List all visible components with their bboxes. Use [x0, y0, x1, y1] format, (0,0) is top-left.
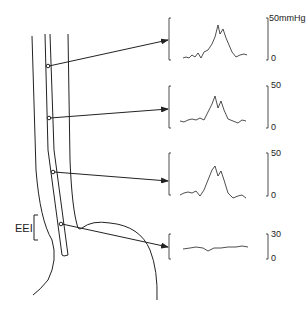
- esophagus-wall: [32, 34, 82, 295]
- trace-2-scale-bottom: 0: [271, 122, 276, 132]
- manometry-diagram: EEI 50mmHg 0 50 0 50 0 30: [0, 0, 307, 311]
- trace-3-scale-bottom: 0: [271, 190, 276, 200]
- stomach-outline: [82, 222, 157, 300]
- pressure-trace-3: [169, 153, 268, 198]
- trace-3-scale-top: 50: [271, 148, 281, 158]
- trace-4-scale-bottom: 0: [271, 253, 276, 263]
- eei-bracket: [34, 215, 38, 240]
- eei-label: EEI: [15, 222, 33, 234]
- pressure-trace-2: [169, 86, 268, 128]
- trace-2-scale-top: 50: [271, 80, 281, 90]
- trace-1-scale-top: 50mmHg: [269, 13, 306, 23]
- arrows: [49, 40, 168, 247]
- trace-1-scale-bottom: 0: [271, 53, 276, 63]
- pressure-trace-4: [169, 234, 268, 259]
- trace-4-scale-top: 30: [271, 229, 281, 239]
- pressure-trace-1: [169, 18, 268, 60]
